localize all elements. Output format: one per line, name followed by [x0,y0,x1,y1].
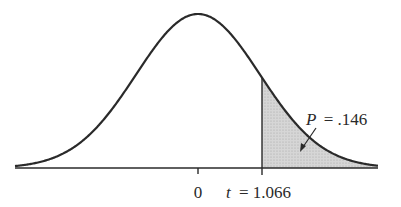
zero-label: 0 [194,183,203,202]
p-value-label: P = .146 [305,110,367,129]
t-distribution-chart: 0 t = 1.066 P = .146 [0,0,401,207]
t-value: = 1.066 [239,183,291,202]
density-curve [15,14,378,166]
t-symbol: t [226,183,232,202]
p-symbol: P [305,110,316,129]
t-value-label: t = 1.066 [226,183,291,202]
p-value: = .146 [324,110,368,129]
